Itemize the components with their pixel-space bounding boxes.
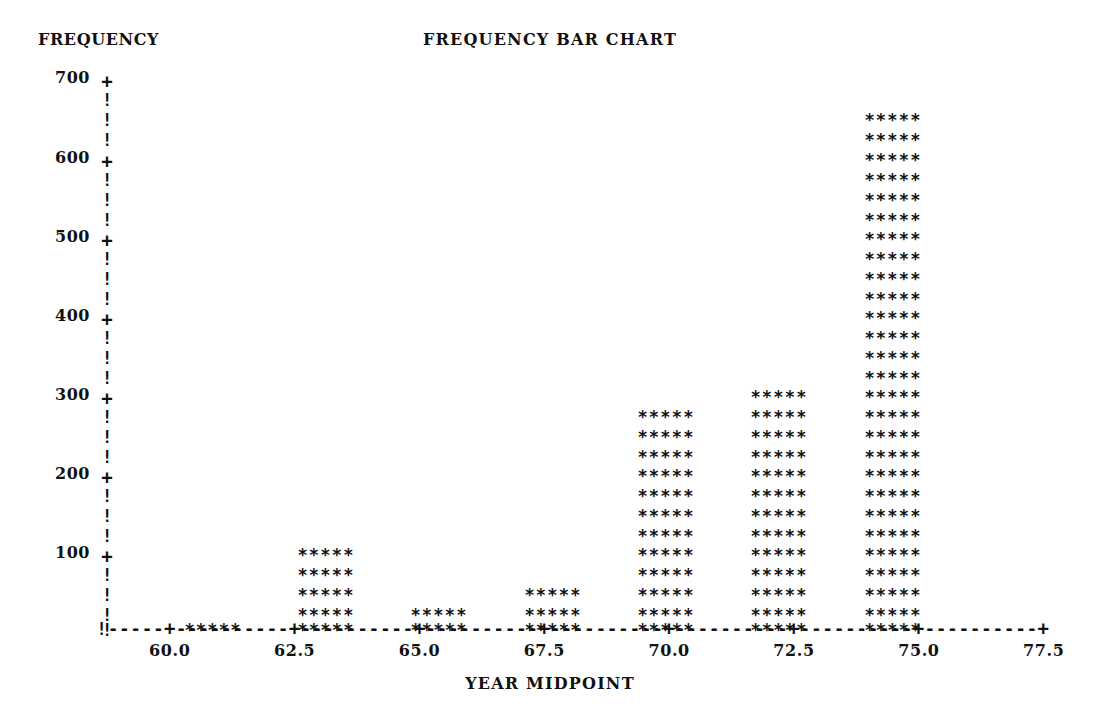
bar-row-glyphs: *****: [739, 449, 819, 466]
bar-row-glyphs: *****: [739, 528, 819, 545]
x-axis-tick-label: 67.5: [499, 641, 589, 660]
bar-row-glyphs: *****: [739, 488, 819, 505]
bar-row-glyphs: *****: [853, 330, 933, 347]
plot-area: +!!!+!!!+!!!+!!!+!!!+!!!+!!!! 7006005004…: [0, 0, 1100, 728]
bar-row-glyphs: *****: [853, 429, 933, 446]
x-axis-line-glyph: -: [697, 621, 708, 638]
bar-row-glyphs: *****: [853, 370, 933, 387]
x-axis-line-glyph: -: [1015, 621, 1026, 638]
bar-row-glyphs: *****: [853, 132, 933, 149]
x-axis-line-glyph: -: [141, 621, 152, 638]
x-axis-line-glyph: -: [323, 621, 334, 638]
bar-row-glyphs: *****: [626, 449, 706, 466]
axis-origin-glyph: !: [96, 621, 107, 638]
x-axis-line-glyph: -: [1004, 621, 1015, 638]
x-axis-line-glyph: -: [425, 621, 436, 638]
x-axis-line-glyph: -: [153, 621, 164, 638]
x-axis-line-glyph: -: [402, 621, 413, 638]
bar-row-glyphs: *****: [853, 409, 933, 426]
frequency-bar-chart: FREQUENCY FREQUENCY BAR CHART +!!!+!!!+!…: [0, 0, 1100, 728]
bar-row-glyphs: *****: [286, 587, 366, 604]
x-axis-line-glyph: -: [493, 621, 504, 638]
x-axis: !-----+----------+----------+----------+…: [96, 619, 1049, 639]
x-axis-line-glyph: -: [436, 621, 447, 638]
x-axis-line-glyph: -: [209, 621, 220, 638]
x-axis-tick-mark: +: [1038, 619, 1049, 638]
x-axis-line-glyph: -: [130, 621, 141, 638]
x-axis-tick-mark: +: [788, 619, 799, 638]
x-axis-line-glyph: -: [935, 621, 946, 638]
x-axis-line-glyph: -: [720, 621, 731, 638]
bar-row-glyphs: *****: [739, 409, 819, 426]
x-axis-line-glyph: -: [981, 621, 992, 638]
x-axis-tick-mark: +: [538, 619, 549, 638]
bar-row-glyphs: *****: [853, 251, 933, 268]
x-axis-line-glyph: -: [119, 621, 130, 638]
bar-row-glyphs: *****: [853, 310, 933, 327]
x-axis-line-glyph: -: [516, 621, 527, 638]
x-axis-line-glyph: -: [357, 621, 368, 638]
x-axis-line-glyph: -: [822, 621, 833, 638]
x-axis-line-glyph: -: [765, 621, 776, 638]
x-axis-line-glyph: -: [187, 621, 198, 638]
x-axis-line-glyph: -: [595, 621, 606, 638]
bar-row-glyphs: *****: [853, 508, 933, 525]
x-axis-line-glyph: -: [675, 621, 686, 638]
bar-row-glyphs: *****: [853, 449, 933, 466]
bar-row-glyphs: *****: [853, 528, 933, 545]
x-axis-line-glyph: -: [561, 621, 572, 638]
x-axis-line-glyph: -: [606, 621, 617, 638]
bar-row-glyphs: *****: [853, 291, 933, 308]
x-axis-line-glyph: -: [198, 621, 209, 638]
bar-row-glyphs: *****: [853, 112, 933, 129]
bar-row-glyphs: *****: [853, 389, 933, 406]
bar-row-glyphs: *****: [853, 172, 933, 189]
bar-row-glyphs: *****: [853, 152, 933, 169]
bar-row-glyphs: *****: [853, 468, 933, 485]
bar-row-glyphs: *****: [513, 587, 593, 604]
bar-row-glyphs: *****: [853, 488, 933, 505]
x-axis-line-glyph: -: [947, 621, 958, 638]
x-axis-line-glyph: -: [266, 621, 277, 638]
bar-row-glyphs: *****: [853, 231, 933, 248]
x-axis-line-glyph: -: [992, 621, 1003, 638]
bar-row-glyphs: *****: [739, 468, 819, 485]
bar-row-glyphs: *****: [739, 429, 819, 446]
x-axis-line-glyph: -: [107, 621, 118, 638]
x-axis-tick-label: 62.5: [250, 641, 340, 660]
x-axis-line-glyph: -: [572, 621, 583, 638]
bar-row-glyphs: *****: [853, 567, 933, 584]
x-axis-tick-label: 65.0: [374, 641, 464, 660]
x-axis-line-glyph: -: [641, 621, 652, 638]
x-axis-line-glyph: -: [969, 621, 980, 638]
x-axis-tick-label: 75.0: [874, 641, 964, 660]
bar-row-glyphs: *****: [853, 192, 933, 209]
x-axis-line-glyph: -: [901, 621, 912, 638]
x-axis-line-glyph: -: [924, 621, 935, 638]
x-axis-line-glyph: -: [890, 621, 901, 638]
bar-row-glyphs: *****: [853, 212, 933, 229]
x-axis-line-glyph: -: [958, 621, 969, 638]
x-axis-line-glyph: -: [550, 621, 561, 638]
bar-row-glyphs: *****: [626, 429, 706, 446]
bar-row-glyphs: *****: [853, 587, 933, 604]
bar-row-glyphs: *****: [626, 468, 706, 485]
x-axis-line-glyph: -: [221, 621, 232, 638]
bar-row-glyphs: *****: [626, 508, 706, 525]
x-axis-tick-mark: +: [913, 619, 924, 638]
x-axis-line-glyph: -: [527, 621, 538, 638]
x-axis-tick-label: 60.0: [125, 641, 215, 660]
x-axis-line-glyph: -: [312, 621, 323, 638]
x-axis-line-glyph: -: [380, 621, 391, 638]
x-axis-line-glyph: -: [856, 621, 867, 638]
x-axis-line-glyph: -: [754, 621, 765, 638]
x-axis-label: YEAR MIDPOINT: [0, 674, 1100, 693]
bar-row-glyphs: *****: [286, 567, 366, 584]
x-axis-line-glyph: -: [391, 621, 402, 638]
bar-row-glyphs: *****: [626, 409, 706, 426]
x-axis-line-glyph: -: [346, 621, 357, 638]
bar-row-glyphs: *****: [739, 567, 819, 584]
x-axis-line-glyph: -: [334, 621, 345, 638]
x-axis-line-glyph: -: [652, 621, 663, 638]
x-axis-line-glyph: -: [811, 621, 822, 638]
